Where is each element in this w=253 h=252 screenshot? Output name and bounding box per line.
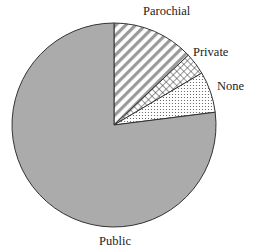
label-parochial: Parochial: [143, 4, 191, 18]
label-none: None: [217, 79, 245, 93]
label-public: Public: [99, 234, 131, 248]
label-private: Private: [193, 45, 229, 59]
pie-chart: Parochial Private None Public: [0, 0, 253, 252]
